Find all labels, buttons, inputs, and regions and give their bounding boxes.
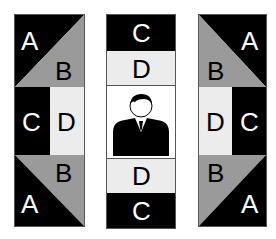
center-panel: C D D C [106, 14, 176, 229]
left-label-a-top: A [21, 28, 38, 54]
left-label-b-top: B [55, 58, 72, 84]
right-label-a-bottom: A [241, 191, 258, 217]
center-label-d-top: D [132, 56, 151, 82]
right-label-b-top: B [207, 58, 224, 84]
right-label-b-bottom: B [207, 160, 224, 186]
center-label-c-top: C [132, 20, 151, 46]
left-panel: A B C D B A [14, 14, 85, 227]
left-label-c: C [22, 109, 41, 135]
person-icon [107, 86, 175, 158]
left-label-a-bottom: A [21, 191, 38, 217]
right-label-c: C [240, 109, 259, 135]
center-label-d-bottom: D [132, 163, 151, 189]
right-label-a-top: A [241, 28, 258, 54]
center-figure-area [107, 86, 175, 158]
right-label-d: D [206, 109, 225, 135]
left-label-b-bottom: B [55, 160, 72, 186]
center-label-c-bottom: C [132, 198, 151, 224]
right-panel: A B D C B A [198, 14, 267, 227]
left-label-d: D [57, 109, 76, 135]
